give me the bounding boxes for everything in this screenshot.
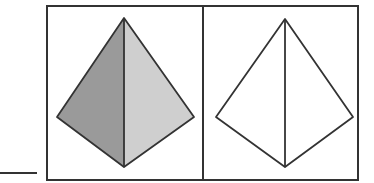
shaded-pyramid-panel	[57, 18, 194, 167]
right-face-light	[124, 18, 194, 167]
outline-pyramid-panel	[216, 19, 353, 167]
left-face-dark	[57, 18, 124, 167]
pyramid-diagram	[0, 0, 374, 183]
